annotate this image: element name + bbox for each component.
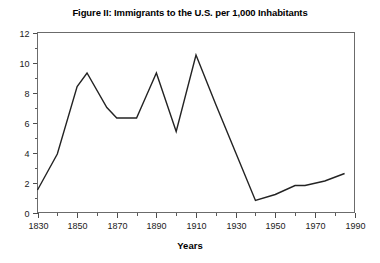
x-tick-label: 1990 [345,221,365,231]
x-tick-label: 1970 [305,221,325,231]
y-tick-label: 2 [24,179,29,189]
y-tick-label: 0 [24,209,29,219]
data-series-layer [38,55,345,201]
y-tick-label: 8 [24,89,29,99]
tick-labels-layer: 0246810121830185018701890191019301950197… [19,29,365,231]
figure-container: Figure II: Immigrants to the U.S. per 1,… [0,0,380,263]
y-tick-label: 6 [24,119,29,129]
y-tick-label: 12 [19,29,29,39]
x-tick-label: 1830 [28,221,48,231]
y-tick-label: 10 [19,59,29,69]
x-tick-label: 1850 [67,221,87,231]
line-chart-plot: 0246810121830185018701890191019301950197… [0,0,380,263]
x-tick-label: 1890 [146,221,166,231]
x-axis-title: Years [0,240,380,251]
data-series-line [38,55,345,201]
x-tick-label: 1910 [186,221,206,231]
x-tick-label: 1870 [107,221,127,231]
x-tick-label: 1950 [265,221,285,231]
y-tick-label: 4 [24,149,29,159]
x-tick-label: 1930 [226,221,246,231]
